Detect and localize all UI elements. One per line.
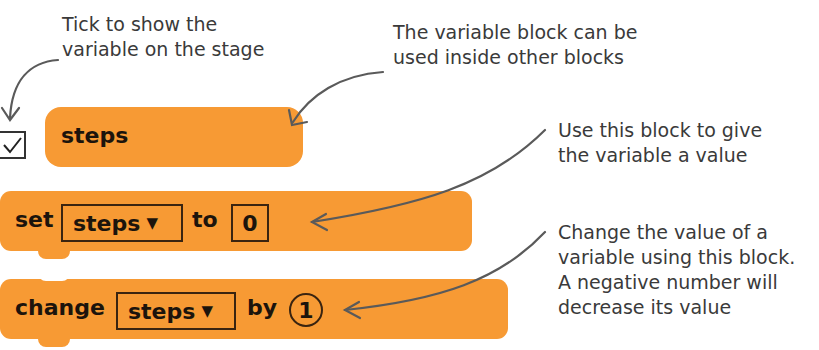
arrow-set-icon: [312, 130, 545, 222]
arrowhead-set-icon: [312, 214, 327, 230]
annotation-arrows: [0, 0, 819, 350]
arrowhead-reporter-icon: [289, 110, 307, 125]
arrow-change-icon: [345, 232, 545, 310]
arrow-reporter-icon: [293, 72, 383, 122]
